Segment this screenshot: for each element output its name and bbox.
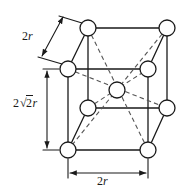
edge-dimension-label: 2r	[22, 30, 33, 42]
atom-front-bottom-left	[60, 142, 76, 158]
base-label-symbol: r	[103, 174, 108, 188]
atom-body-center	[109, 82, 125, 98]
edge-dimension-arrow	[42, 17, 63, 56]
unit-cell-figure: 2r 2√2r 2r	[0, 0, 186, 194]
atom-front-bottom-right	[140, 142, 156, 158]
edge-dimension	[38, 16, 82, 64]
height-dimension	[43, 69, 59, 150]
base-dimension	[68, 159, 148, 178]
height-label-radicand: 2	[26, 95, 33, 110]
height-dimension-label: 2√2r	[13, 97, 37, 109]
atom-back-bottom-right	[159, 100, 175, 116]
atom-front-top-left	[60, 61, 76, 77]
edge-dimension-extension-lower	[38, 57, 62, 64]
atom-back-bottom-left	[80, 100, 96, 116]
atoms-group	[60, 20, 175, 158]
atom-back-top-left	[80, 20, 96, 36]
edge-label-symbol: r	[28, 29, 33, 43]
square-root-group: √2	[19, 97, 33, 109]
atom-back-top-right	[159, 20, 175, 36]
atom-front-top-right	[140, 61, 156, 77]
height-label-symbol: r	[33, 96, 38, 110]
base-dimension-label: 2r	[97, 175, 108, 187]
